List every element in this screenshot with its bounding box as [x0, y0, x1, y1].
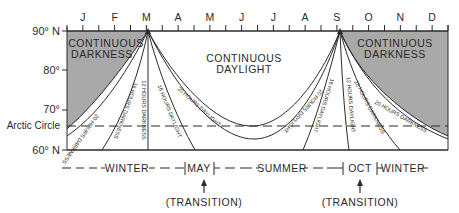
transition-arrow-may — [201, 179, 207, 193]
month-label: J — [239, 11, 244, 23]
lat-70-label: 70° — [43, 103, 60, 115]
season-may: MAY — [187, 162, 210, 174]
month-label: A — [302, 11, 309, 23]
season-winter-1: WINTER — [105, 162, 149, 174]
lat-60-label: 60° N — [32, 144, 60, 156]
month-label: J — [271, 11, 276, 23]
month-label: M — [142, 11, 151, 23]
season-winter-2: WINTER — [381, 162, 425, 174]
transition-arrow-oct — [357, 179, 363, 193]
daylight-diagram: JFMAMJJASOND 90° N 80° 70° Arctic Circle… — [0, 0, 459, 213]
month-label: N — [397, 11, 405, 23]
label-16h-dark-spring: 16 HOURS DARKNESS — [113, 82, 139, 140]
lat-80-label: 80° — [43, 64, 60, 76]
month-label: D — [428, 11, 436, 23]
month-ticks — [67, 25, 448, 31]
month-label: J — [80, 11, 85, 23]
daylight-label-2: DAYLIGHT — [216, 63, 272, 75]
month-label: A — [175, 11, 182, 23]
month-label: F — [111, 11, 117, 23]
month-label: S — [333, 11, 340, 23]
lat-90-label: 90° N — [32, 25, 60, 37]
month-label: O — [365, 11, 373, 23]
arctic-circle-label: Arctic Circle — [7, 120, 61, 131]
latitude-ticks — [62, 31, 67, 150]
curve-20h-day-spring — [148, 31, 340, 126]
curve-16h-day-spring — [148, 31, 195, 150]
label-12h-spring: 12 HOURS DARKNESS — [141, 80, 147, 140]
month-label: M — [206, 11, 215, 23]
month-labels: JFMAMJJASOND — [80, 11, 436, 23]
transition-label-may: (TRANSITION) — [166, 196, 243, 208]
label-20h-day-spring: 20 HOURS DAYLIGHT — [176, 86, 222, 128]
season-oct: OCT — [348, 162, 372, 174]
transition-label-oct: (TRANSITION) — [322, 196, 399, 208]
season-summer: SUMMER — [257, 162, 307, 174]
darkness-right-label-2: DARKNESS — [364, 48, 426, 60]
darkness-left-label-2: DARKNESS — [71, 48, 133, 60]
